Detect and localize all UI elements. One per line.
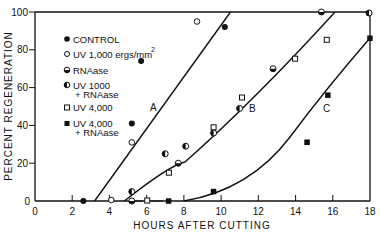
y-tick-20: 20 (17, 158, 29, 169)
x-tick-labels: 0 2 4 6 8 10 12 14 16 18 (32, 206, 376, 217)
x-tick-14: 14 (290, 206, 302, 217)
legend: CONTROL UV 1,000 ergs/mm 2 RNAase UV 100… (64, 34, 155, 139)
curve-label-c: C (323, 103, 330, 114)
legend-item-uv1000: UV 1,000 ergs/mm 2 (65, 46, 156, 60)
x-tick-10: 10 (216, 206, 228, 217)
curve-c (184, 38, 370, 201)
svg-text:UV 1,000 ergs/mm: UV 1,000 ergs/mm (73, 49, 152, 60)
x-tick-18: 18 (364, 206, 376, 217)
y-ticks (29, 12, 35, 163)
svg-text:2: 2 (151, 46, 155, 53)
regeneration-chart: 0 2 4 6 8 10 12 14 16 18 0 20 40 60 80 1… (0, 0, 380, 233)
legend-item-control: CONTROL (64, 34, 119, 45)
y-tick-60: 60 (17, 82, 29, 93)
y-tick-labels: 0 20 40 60 80 100 (11, 7, 30, 207)
y-tick-0: 0 (24, 196, 30, 207)
y-tick-80: 80 (17, 44, 29, 55)
series-uv4000 (145, 37, 330, 203)
svg-text:CONTROL: CONTROL (73, 34, 119, 45)
series-uv4000-rnaase (166, 36, 373, 204)
svg-text:UV 4,000: UV 4,000 (73, 102, 113, 113)
legend-item-uv1000-rnaase: UV 1000 + RNAase (64, 80, 118, 100)
y-tick-40: 40 (17, 120, 29, 131)
x-tick-16: 16 (327, 206, 339, 217)
legend-item-uv4000: UV 4,000 (65, 102, 113, 113)
x-tick-2: 2 (69, 206, 75, 217)
svg-text:+ RNAase: + RNAase (75, 89, 119, 100)
x-tick-0: 0 (32, 206, 38, 217)
y-tick-100: 100 (11, 7, 28, 18)
x-tick-6: 6 (144, 206, 150, 217)
x-tick-4: 4 (107, 206, 113, 217)
curve-label-b: B (249, 103, 256, 114)
legend-item-uv4000-rnaase: UV 4,000 + RNAase (65, 118, 119, 138)
svg-text:+ RNAase: + RNAase (75, 127, 119, 138)
x-axis-title: HOURS AFTER CUTTING (133, 220, 270, 231)
y-axis-title: PERCENT REGENERATION (3, 31, 14, 181)
svg-text:RNAase: RNAase (73, 65, 108, 76)
x-tick-8: 8 (181, 206, 187, 217)
legend-item-rnaase: RNAase (64, 65, 108, 76)
series-rnaase (129, 9, 325, 204)
curve-label-a: A (150, 102, 157, 113)
x-tick-12: 12 (253, 206, 265, 217)
